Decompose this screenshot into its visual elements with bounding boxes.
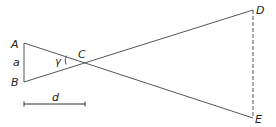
distance-label-d: d [52,91,60,104]
angle-label-gamma: γ [55,56,62,67]
point-label-a: A [10,38,19,51]
similar-triangles-diagram: A B C D E a γ d [0,0,276,127]
point-label-e: E [255,113,262,126]
line-b-d [24,10,253,82]
angle-gamma-arc [65,56,66,65]
line-a-e [24,43,253,118]
point-label-c: C [78,48,86,61]
point-label-b: B [11,76,19,89]
point-label-d: D [256,4,264,17]
side-label-a: a [13,56,20,69]
